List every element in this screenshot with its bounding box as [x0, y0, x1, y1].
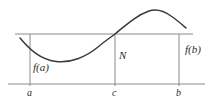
label-f-of-a: f(a): [33, 62, 49, 73]
label-f-of-b: f(b): [185, 44, 201, 55]
axis-label-c: c: [112, 88, 116, 98]
figure-canvas: [0, 0, 214, 102]
intermediate-value-theorem-figure: f(a) N f(b) a c b: [0, 0, 214, 102]
label-n-value: N: [119, 50, 126, 61]
axis-label-b: b: [176, 88, 181, 98]
axis-label-a: a: [27, 88, 32, 98]
function-curve: [20, 10, 186, 62]
